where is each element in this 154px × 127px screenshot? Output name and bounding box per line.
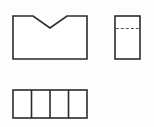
drawing-svg <box>0 0 154 127</box>
front-view-outline <box>13 16 87 59</box>
top-view-divided-rectangle <box>13 90 87 118</box>
front-view-notched-rectangle <box>13 16 87 59</box>
side-view-rectangle-with-hidden-line <box>115 16 140 59</box>
side-view-outline <box>115 16 140 59</box>
engineering-drawing-canvas <box>0 0 154 127</box>
